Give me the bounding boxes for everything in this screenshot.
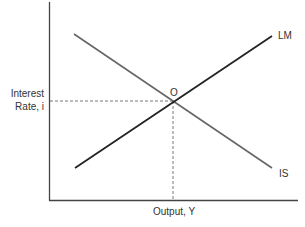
y-axis-label-line2: Rate, i: [0, 101, 44, 113]
lm-curve-label: LM: [278, 30, 292, 42]
x-axis-label: Output, Y: [153, 206, 195, 218]
y-axis-label-line1: Interest: [0, 88, 44, 100]
is-curve-label: IS: [279, 168, 288, 180]
equilibrium-label: O: [170, 87, 178, 99]
is-lm-diagram: [0, 0, 305, 227]
